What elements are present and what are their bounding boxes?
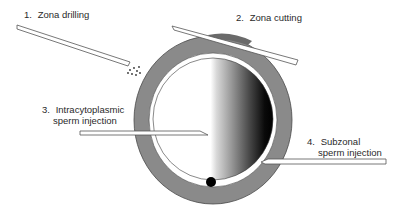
label-number: 1. [24, 9, 35, 20]
label-zona-drilling: 1. Zona drilling [24, 9, 89, 20]
subzonal-pipette [261, 159, 386, 164]
label-number: 3. [42, 104, 53, 115]
label-text-line2: sperm injection [307, 147, 382, 158]
label-zona-cutting: 2. Zona cutting [236, 12, 302, 23]
label-text: Zona cutting [250, 12, 302, 23]
label-text-line2: sperm injection [42, 115, 124, 126]
polar-body [206, 177, 216, 187]
label-number: 2. [236, 12, 247, 23]
label-subzonal-sperm-injection: 4. Subzonal sperm injection [307, 136, 382, 158]
label-text: Zona drilling [38, 9, 90, 20]
label-intracytoplasmic-sperm-injection: 3. Intracytoplasmic sperm injection [42, 104, 124, 126]
zona-drilling-pipette [17, 25, 130, 66]
label-text: Subzonal [321, 136, 361, 147]
icsi-pipette [80, 131, 208, 135]
label-text: Intracytoplasmic [56, 104, 125, 115]
zona-drilling-notch [131, 54, 145, 75]
label-number: 4. [307, 136, 318, 147]
oocyte [153, 58, 273, 180]
